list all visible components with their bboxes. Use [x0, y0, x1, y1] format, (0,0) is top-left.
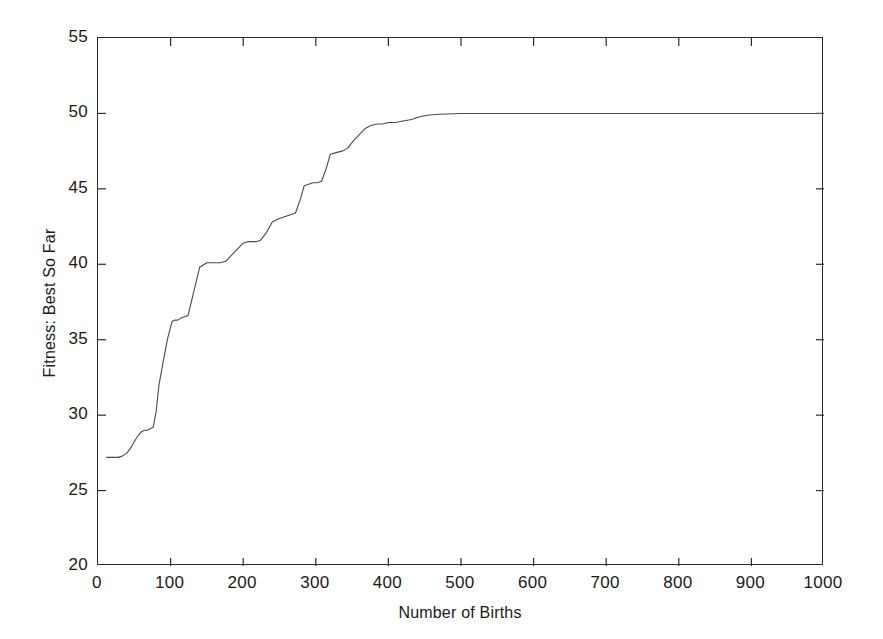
y-axis-ticks [98, 113, 106, 490]
x-axis-label: Number of Births [97, 604, 823, 622]
plot-area [97, 37, 823, 565]
y-tick-label-45: 45 [42, 179, 88, 196]
y-tick-label-20: 20 [42, 556, 88, 573]
x-tick-label-100: 100 [135, 574, 205, 591]
y-tick-label-40: 40 [42, 254, 88, 271]
x-tick-label-800: 800 [643, 574, 713, 591]
x-axis-tick-labels: 01002003004005006007008009001000 [0, 574, 883, 598]
y-tick-label-55: 55 [42, 28, 88, 45]
y-tick-label-35: 35 [42, 330, 88, 347]
x-tick-label-600: 600 [498, 574, 568, 591]
x-axis-ticks [171, 558, 752, 566]
fitness-best-so-far-line [107, 113, 824, 457]
x-tick-label-700: 700 [570, 574, 640, 591]
x-tick-label-400: 400 [352, 574, 422, 591]
top-axis-ticks [171, 38, 752, 46]
chart-figure: Fitness: Best So Far 2025303540455055 01… [0, 0, 883, 639]
x-tick-label-500: 500 [425, 574, 495, 591]
right-axis-ticks [816, 113, 824, 490]
x-tick-label-1000: 1000 [788, 574, 858, 591]
x-tick-label-900: 900 [715, 574, 785, 591]
x-tick-label-200: 200 [207, 574, 277, 591]
y-tick-label-50: 50 [42, 103, 88, 120]
plot-canvas [98, 38, 824, 566]
x-tick-label-300: 300 [280, 574, 350, 591]
x-tick-label-0: 0 [62, 574, 132, 591]
y-tick-label-25: 25 [42, 481, 88, 498]
y-tick-label-30: 30 [42, 405, 88, 422]
y-axis-tick-labels: 2025303540455055 [34, 0, 88, 639]
